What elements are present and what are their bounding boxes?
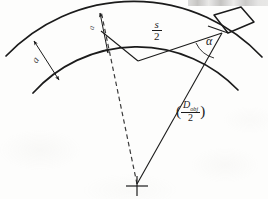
label-angle-alpha: α: [206, 35, 212, 47]
depth-arrow-mid: [100, 13, 108, 53]
diagram-canvas: [0, 0, 268, 199]
outer-arc: [6, 1, 262, 57]
label-chord-half: s 2: [152, 19, 162, 42]
chord-half-denominator: 2: [152, 31, 162, 42]
radius-close-paren: ): [200, 104, 205, 119]
inner-arc: [33, 47, 238, 93]
radius-denominator: 2: [181, 113, 200, 123]
dashed-center-radius: [101, 11, 137, 184]
center-cross-marker: [126, 176, 148, 196]
cutting-tool: [214, 7, 254, 33]
label-radius-dobj: ( Dobj 2 ): [176, 100, 205, 123]
radius-numerator-subscript: obj: [190, 105, 198, 112]
figure-root: s 2 α ( Dobj 2 ) a a: [0, 0, 268, 199]
